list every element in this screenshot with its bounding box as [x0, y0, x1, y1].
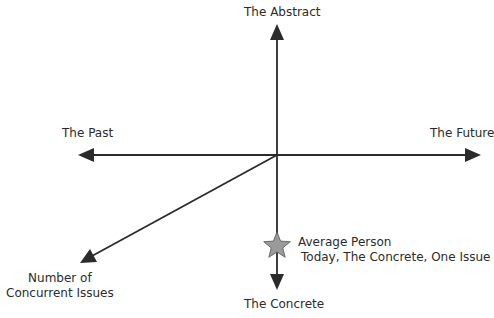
- diagonal-axis: [80, 155, 277, 263]
- label-the-future: The Future: [430, 126, 494, 141]
- label-line-2: Concurrent Issues: [6, 286, 114, 301]
- marker-label-line-1: Average Person: [298, 235, 490, 250]
- label-the-past: The Past: [62, 126, 113, 141]
- arrow-down-icon: [270, 274, 284, 290]
- marker-label: Average Person Today, The Concrete, One …: [298, 235, 490, 265]
- horizontal-axis: [78, 148, 481, 162]
- label-number-of-concurrent-issues: Number of Concurrent Issues: [6, 271, 114, 301]
- arrow-left-icon: [78, 148, 94, 162]
- label-line-1: Number of: [6, 271, 114, 286]
- marker-label-line-2: Today, The Concrete, One Issue: [298, 250, 490, 265]
- arrow-diagonal-icon: [80, 249, 97, 263]
- label-the-concrete: The Concrete: [244, 297, 324, 312]
- label-the-abstract: The Abstract: [244, 5, 321, 20]
- arrow-up-icon: [270, 24, 284, 40]
- arrow-right-icon: [465, 148, 481, 162]
